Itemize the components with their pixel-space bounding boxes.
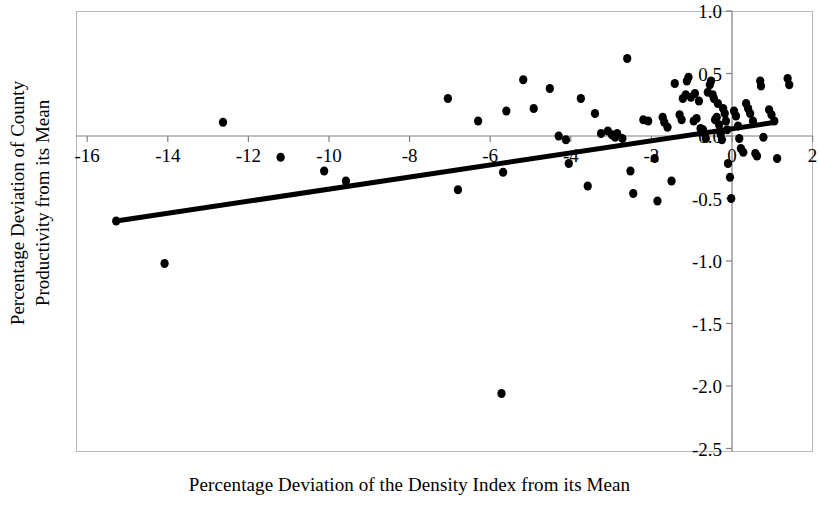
y-tick-label: -2.0 [674, 377, 722, 396]
x-tick-label: 0 [727, 146, 737, 165]
y-tick-label: 1.0 [674, 2, 722, 21]
y-tick-label: -0.5 [674, 189, 722, 208]
scatter-plot-figure: -16-14-12-10-8-6-4-202 1.00.50.0-0.5-1.0… [0, 0, 819, 511]
x-tick-label: -4 [563, 146, 579, 165]
y-tick-label: 0.5 [674, 64, 722, 83]
y-axis-title: Percentage Deviation of County Productiv… [5, 53, 55, 353]
y-axis-title-line-2: Productivity from its Mean [30, 53, 55, 353]
y-tick-label: -1.5 [674, 314, 722, 333]
x-tick-label: 2 [808, 146, 818, 165]
y-tick-label: -1.0 [674, 252, 722, 271]
y-tick-label: 0.0 [674, 127, 722, 146]
x-tick-label: -14 [155, 146, 180, 165]
x-axis-title: Percentage Deviation of the Density Inde… [0, 474, 819, 496]
x-tick-label: -16 [75, 146, 100, 165]
x-tick-label: -10 [316, 146, 341, 165]
x-tick-label: -6 [482, 146, 498, 165]
y-tick-label: -2.5 [674, 439, 722, 458]
x-tick-label: -8 [402, 146, 418, 165]
x-tick-label: -2 [643, 146, 659, 165]
x-tick-label: -12 [236, 146, 261, 165]
y-axis-title-line-1: Percentage Deviation of County [5, 53, 30, 353]
